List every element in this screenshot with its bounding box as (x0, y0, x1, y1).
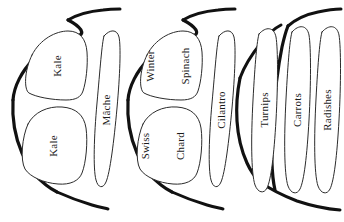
bed-right-top-tail (288, 9, 341, 26)
garden-bed-diagram: Kale Kale Mâche Winter Spinach Swiss Cha… (0, 0, 344, 222)
plot-carrots[interactable] (285, 27, 311, 193)
bed-middle (128, 9, 235, 209)
bed-right (237, 9, 341, 210)
plot-swiss-chard[interactable] (137, 107, 202, 184)
bed-left-top-tail (68, 9, 120, 20)
plot-radishes[interactable] (315, 27, 341, 193)
diagram-canvas (0, 0, 344, 222)
plot-kale-bottom[interactable] (22, 107, 87, 184)
bed-middle-bottom-tail (172, 192, 223, 209)
bed-middle-top-tail (183, 9, 235, 20)
bed-left (13, 9, 120, 209)
bed-left-bottom-tail (57, 192, 108, 209)
plot-kale-top[interactable] (26, 31, 88, 100)
plot-mache[interactable] (94, 31, 120, 187)
plot-winter-spinach[interactable] (141, 31, 203, 100)
plot-cilantro[interactable] (209, 31, 235, 187)
